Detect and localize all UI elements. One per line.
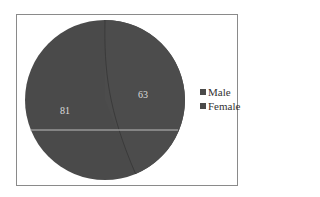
label-female: 81	[60, 105, 70, 116]
label-male: 63	[138, 89, 148, 100]
legend-label: Female	[208, 100, 240, 112]
legend-swatch	[200, 103, 206, 109]
legend-item-male: Male	[200, 85, 240, 99]
legend-label: Male	[208, 86, 231, 98]
legend: Male Female	[200, 85, 240, 113]
legend-swatch	[200, 89, 206, 95]
legend-item-female: Female	[200, 99, 240, 113]
